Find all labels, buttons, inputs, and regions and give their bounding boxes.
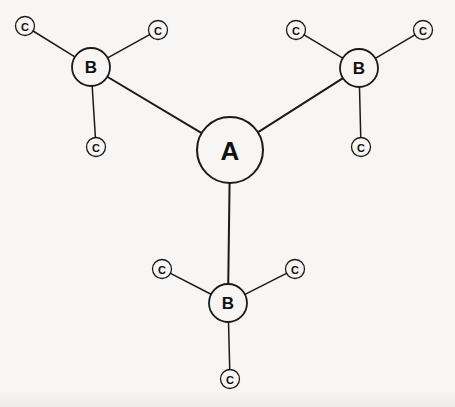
- edge-a-b1: [107, 76, 202, 133]
- node-label-a: A: [221, 136, 240, 166]
- node-c33[interactable]: C: [221, 370, 240, 389]
- node-c31[interactable]: C: [153, 260, 172, 279]
- edge-a-b2: [257, 78, 343, 133]
- edge-b2-c23: [359, 86, 360, 138]
- edge-a-b3: [228, 182, 229, 284]
- node-label-b3: B: [222, 294, 234, 313]
- edge-b2-c21: [304, 35, 343, 59]
- edge-b1-c12: [107, 34, 150, 58]
- edge-b3-c31: [170, 273, 212, 294]
- node-c22[interactable]: C: [414, 21, 433, 40]
- node-a[interactable]: A: [197, 117, 263, 183]
- node-label-b2: B: [353, 59, 365, 78]
- node-c11[interactable]: C: [16, 17, 35, 36]
- node-c13[interactable]: C: [87, 138, 106, 157]
- node-c12[interactable]: C: [149, 21, 168, 40]
- edge-b2-c22: [375, 35, 415, 59]
- node-label-c22: C: [419, 25, 427, 37]
- node-label-c21: C: [292, 25, 300, 37]
- node-c23[interactable]: C: [352, 138, 371, 157]
- node-label-c13: C: [92, 142, 100, 154]
- node-label-c11: C: [21, 21, 29, 33]
- node-b3[interactable]: B: [209, 284, 247, 322]
- edge-b3-c32: [244, 273, 286, 295]
- node-b2[interactable]: B: [340, 49, 378, 87]
- node-label-c33: C: [226, 374, 234, 386]
- node-b1[interactable]: B: [72, 48, 110, 86]
- edge-b1-c11: [33, 31, 76, 57]
- node-label-b1: B: [85, 58, 97, 77]
- node-label-c12: C: [154, 25, 162, 37]
- node-c32[interactable]: C: [286, 260, 305, 279]
- edge-b3-c33: [228, 321, 229, 370]
- edge-b1-c13: [92, 85, 95, 138]
- diagram-canvas: ABBBCCCCCCCCC: [0, 0, 455, 407]
- node-link-graph: ABBBCCCCCCCCC: [0, 0, 455, 407]
- node-label-c32: C: [291, 264, 299, 276]
- nodes-layer: ABBBCCCCCCCCC: [16, 17, 433, 389]
- node-label-c31: C: [158, 264, 166, 276]
- node-label-c23: C: [357, 142, 365, 154]
- node-c21[interactable]: C: [287, 21, 306, 40]
